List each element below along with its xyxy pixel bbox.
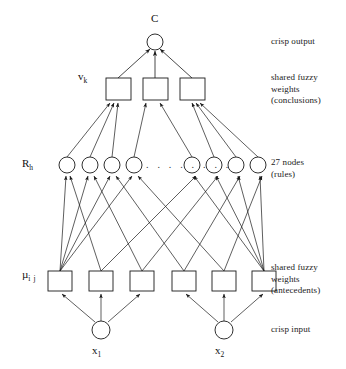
conclusion-box xyxy=(180,78,205,100)
input-1-label: x1 xyxy=(92,344,101,359)
conclusion-weight-boxes xyxy=(106,78,205,100)
output-node xyxy=(147,34,163,50)
network-graph xyxy=(0,0,346,369)
antecedent-weights-label: µi j xyxy=(22,268,36,283)
antecedent-weights-subscript: i j xyxy=(28,274,36,283)
annotation-shared-fuzzy-weights-antecedents: shared fuzzy weights (antecedents) xyxy=(271,262,320,297)
diagram-canvas: . . . . . . . . C vk Rh µi j x1 x2 crisp… xyxy=(0,0,346,369)
annotation-crisp-output: crisp output xyxy=(271,36,315,48)
rule-node xyxy=(59,157,75,173)
rule-nodes-label: Rh xyxy=(22,157,34,172)
antecedent-box xyxy=(212,271,236,291)
input-2-subscript: 2 xyxy=(221,350,225,359)
rule-node xyxy=(104,157,120,173)
edges-conclusions-to-output xyxy=(118,49,192,78)
input-2-label: x2 xyxy=(215,344,224,359)
output-node-label: C xyxy=(151,12,158,24)
input-nodes xyxy=(92,321,233,339)
rule-node xyxy=(82,157,98,173)
antecedent-box xyxy=(48,271,72,291)
input-1-subscript: 1 xyxy=(98,350,102,359)
antecedent-box xyxy=(172,271,196,291)
annotation-crisp-input: crisp input xyxy=(271,324,310,336)
annotation-rule-count: 27 nodes (rules) xyxy=(271,157,304,180)
edges-rules-to-conclusions xyxy=(67,103,258,157)
edges-antecedents-to-rules xyxy=(60,176,264,271)
antecedent-box xyxy=(130,271,154,291)
input-node xyxy=(92,321,110,339)
antecedent-box xyxy=(89,271,113,291)
conclusion-weights-label: vk xyxy=(78,70,88,85)
antecedent-weight-boxes xyxy=(48,271,276,291)
rule-nodes-subscript: h xyxy=(29,163,33,172)
rule-node xyxy=(126,157,142,173)
rule-nodes-ellipsis: . . . . . . . . xyxy=(146,159,232,170)
edges-inputs-to-antecedents xyxy=(62,294,263,322)
conclusion-weights-subscript: k xyxy=(84,76,88,85)
rule-node xyxy=(250,157,266,173)
conclusion-box xyxy=(143,78,168,100)
annotation-shared-fuzzy-weights-conclusions: shared fuzzy weights (conclusions) xyxy=(271,72,321,107)
input-node xyxy=(215,321,233,339)
conclusion-box xyxy=(106,78,131,100)
